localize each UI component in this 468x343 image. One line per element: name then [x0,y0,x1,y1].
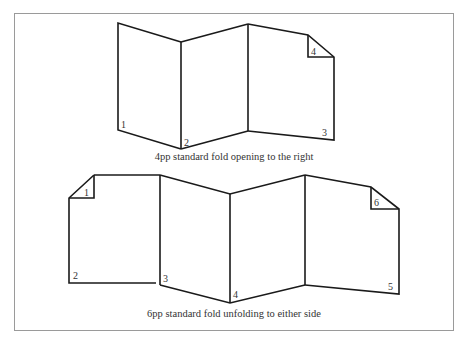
page-label-4: 4 [311,46,316,57]
panel-3-outline [160,175,305,194]
caption-4pp: 4pp standard fold opening to the right [14,151,454,162]
panel-2-outline [181,24,248,42]
page-label-6: 6 [374,197,379,208]
page-label-1: 1 [84,187,89,198]
diagram-6pp: 1 2 3 4 5 6 [69,175,399,303]
panel-left-body [69,175,156,283]
panel-right-outline [305,175,399,294]
panel-3-outline [248,24,334,140]
page-label-1: 1 [121,119,126,130]
page-label-5: 5 [388,281,393,292]
diagram-4pp: 1 2 3 4 [118,23,334,149]
fold-diagrams: 1 2 3 4 1 2 3 4 5 6 [0,0,468,343]
page-label-2: 2 [184,137,189,148]
page-label-3: 3 [163,273,168,284]
panel-2-bottom [181,131,248,149]
panel-1-outline [118,23,181,149]
caption-6pp: 6pp standard fold unfolding to either si… [14,308,454,319]
page-label-3: 3 [322,127,327,138]
page-label-2: 2 [73,270,78,281]
page-label-4: 4 [233,289,238,300]
